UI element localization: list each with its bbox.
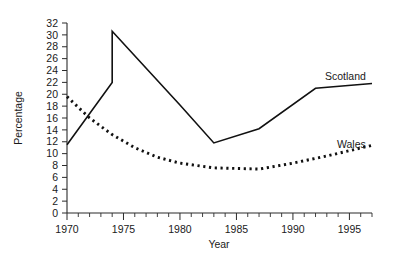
y-tick-label: 6	[52, 171, 58, 183]
y-tick-label: 18	[46, 100, 58, 112]
x-tick-label: 1990	[281, 223, 305, 235]
y-tick-label: 10	[46, 147, 58, 159]
y-axis-ticks	[62, 23, 67, 213]
y-axis-tick-labels: 02468101214161820222426283032	[46, 17, 58, 219]
x-tick-label: 1985	[225, 223, 249, 235]
y-tick-label: 0	[52, 207, 58, 219]
series-line-wales	[67, 97, 372, 169]
x-tick-label: 1970	[55, 223, 79, 235]
x-axis-tick-labels: 197019751980198519901995	[55, 223, 361, 235]
line-chart: 02468101214161820222426283032 1970197519…	[0, 0, 399, 269]
x-axis-minor-ticks	[78, 213, 372, 217]
x-axis-major-ticks	[67, 213, 349, 220]
y-tick-label: 2	[52, 195, 58, 207]
y-tick-label: 20	[46, 88, 58, 100]
y-tick-label: 30	[46, 29, 58, 41]
x-axis-title: Year	[208, 238, 230, 250]
chart-container: 02468101214161820222426283032 1970197519…	[0, 0, 399, 269]
y-tick-label: 8	[52, 159, 58, 171]
y-tick-label: 22	[46, 76, 58, 88]
x-tick-label: 1980	[168, 223, 192, 235]
y-tick-label: 24	[46, 64, 58, 76]
y-tick-label: 14	[46, 124, 58, 136]
y-tick-label: 16	[46, 112, 58, 124]
x-axis: 197019751980198519901995	[55, 213, 372, 235]
y-tick-label: 4	[52, 183, 58, 195]
series-label-wales: Wales	[337, 138, 366, 150]
y-tick-label: 12	[46, 135, 58, 147]
series-label-scotland: Scotland	[325, 70, 366, 82]
y-tick-label: 32	[46, 17, 58, 29]
y-tick-label: 26	[46, 52, 58, 64]
y-axis: 02468101214161820222426283032	[46, 17, 67, 219]
series-line-scotland	[67, 31, 372, 144]
y-axis-title: Percentage	[12, 91, 24, 145]
y-tick-label: 28	[46, 40, 58, 52]
x-tick-label: 1975	[112, 223, 136, 235]
x-tick-label: 1995	[338, 223, 362, 235]
